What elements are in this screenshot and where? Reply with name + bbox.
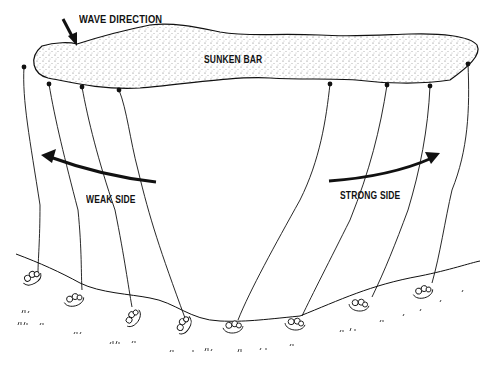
tether-lines xyxy=(24,64,469,320)
wave-direction-arrow-icon xyxy=(63,19,77,46)
strong-side-arrow-icon xyxy=(329,152,440,181)
strong-side-label: STRONG SIDE xyxy=(340,190,400,201)
shoreline xyxy=(16,254,480,321)
weak-side-label: WEAK SIDE xyxy=(86,194,136,205)
weak-side-arrow-icon xyxy=(41,149,156,182)
sunken-bar-label: SUNKEN BAR xyxy=(204,54,262,65)
raft-icons xyxy=(20,268,434,337)
wave-direction-label: WAVE DIRECTION xyxy=(79,13,162,25)
